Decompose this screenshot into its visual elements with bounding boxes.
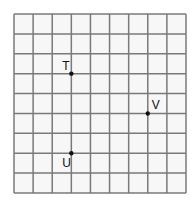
point-label: T	[62, 59, 70, 73]
point-marker	[146, 111, 150, 115]
grid-background	[14, 14, 186, 193]
point-marker	[69, 71, 73, 75]
point-label: U	[62, 156, 71, 170]
point-label: V	[152, 98, 160, 112]
point-marker	[69, 151, 73, 155]
grid-diagram: TVU	[0, 0, 195, 203]
